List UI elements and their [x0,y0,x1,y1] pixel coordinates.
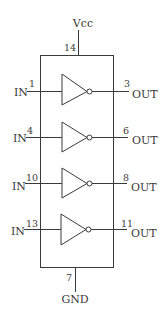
inverter-triangle-icon [62,168,87,198]
input-pin-number: 1 [29,78,35,89]
input-label: IN [11,225,25,238]
gnd-pin-number: 7 [66,272,72,283]
output-label: OUT [132,134,158,147]
gnd-label: GND [61,293,88,306]
output-pin-number: 3 [124,78,130,89]
inverter-gate-2: IN 4 6 OUT [13,122,158,152]
inversion-bubble-icon [86,227,91,232]
input-label: IN [12,180,26,193]
inverter-triangle-icon [61,214,86,245]
output-pin-number: 8 [123,172,129,183]
input-pin-number: 4 [27,125,33,136]
input-label: IN [13,132,27,145]
inverter-gate-1: IN 1 3 OUT [14,74,158,105]
inverter-gate-4: IN 13 11 OUT [11,214,157,245]
inverter-gate-3: IN 10 8 OUT [12,168,157,198]
inverter-triangle-icon [62,74,87,105]
output-label: OUT [132,88,158,101]
inversion-bubble-icon [87,181,92,186]
inversion-bubble-icon [87,89,92,94]
vcc-label: Vcc [72,17,93,30]
output-label: OUT [131,181,157,194]
vcc-pin-number: 14 [64,42,76,53]
input-label: IN [14,86,28,99]
output-pin-number: 6 [123,125,129,136]
inverter-triangle-icon [62,122,87,152]
ic-diagram: Vcc 14 7 GND IN 1 3 OUT IN 4 6 OUT IN 10… [0,0,167,321]
input-pin-number: 10 [26,172,38,183]
inversion-bubble-icon [87,135,92,140]
output-label: OUT [131,227,157,240]
input-pin-number: 13 [26,218,38,229]
